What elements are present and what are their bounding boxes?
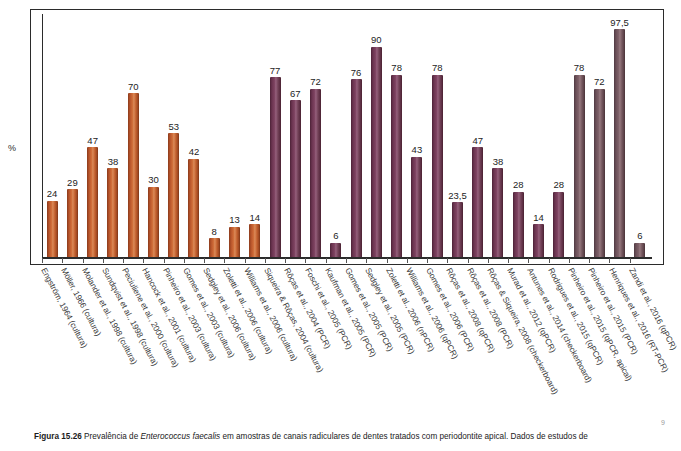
x-axis-tick [184,258,204,263]
x-axis-tick [62,258,82,263]
bar-slot: 53 [164,14,184,257]
bar[interactable] [209,238,220,257]
x-axis-ticks [42,258,650,263]
bar-series: 2429473870305342813147767726769078437823… [42,14,650,257]
bar[interactable] [67,189,78,257]
bar[interactable] [229,227,240,257]
bar[interactable] [249,224,260,257]
x-axis-tick [447,258,467,263]
x-axis-tick [285,258,305,263]
bar-slot: 77 [265,14,285,257]
bar[interactable] [533,224,544,257]
x-axis-tick [427,258,447,263]
page-folio: 9 [661,419,665,426]
x-axis-tick [164,258,184,263]
x-axis-tick [488,258,508,263]
caption-rest: em amostras de canais radiculares de den… [220,432,588,441]
bar-value-label: 6 [617,231,663,241]
bar-slot: 30 [143,14,163,257]
x-axis-category-labels: Engström, 1964 (cultura)Möller, 1966 (cu… [42,266,681,416]
bar[interactable] [270,77,281,257]
x-axis-tick [103,258,123,263]
x-axis-tick [468,258,488,263]
bar-slot: 78 [387,14,407,257]
caption-divider [0,415,672,416]
bar[interactable] [290,100,301,257]
plot-area: 2429473870305342813147767726769078437823… [42,14,650,257]
bar[interactable] [574,75,585,257]
bar-slot: 38 [103,14,123,257]
bar-slot: 72 [589,14,609,257]
figure-number: Figura 15.26 [34,432,84,441]
bar-slot: 42 [184,14,204,257]
bar[interactable] [614,29,625,257]
bar[interactable] [351,79,362,257]
bar[interactable] [148,187,159,257]
bar[interactable] [330,243,341,257]
bar-slot: 72 [305,14,325,257]
x-axis-tick [609,258,629,263]
bar[interactable] [47,201,58,257]
x-axis-tick [366,258,386,263]
x-axis-tick [549,258,569,263]
x-axis-tick [265,258,285,263]
bar[interactable] [553,192,564,257]
caption-lead: Prevalência de [84,432,140,441]
bar[interactable] [107,168,118,257]
bar-slot: 6 [630,14,650,257]
bar[interactable] [513,192,524,257]
bar[interactable] [391,75,402,257]
x-axis-tick [123,258,143,263]
x-axis-tick [589,258,609,263]
x-axis-tick [83,258,103,263]
bar[interactable] [432,75,443,257]
bar-slot: 14 [528,14,548,257]
bar-slot: 78 [427,14,447,257]
bar-slot: 76 [346,14,366,257]
bar[interactable] [452,202,463,257]
x-axis-tick [326,258,346,263]
x-axis-tick [387,258,407,263]
x-axis-tick [143,258,163,263]
x-axis-tick [224,258,244,263]
caption-species-name: Enterococcus faecalis [141,432,221,441]
bar-slot: 97,5 [609,14,629,257]
y-axis-label: % [8,143,16,153]
bar[interactable] [188,159,199,257]
x-axis-tick [42,258,62,263]
bar-slot: 47 [83,14,103,257]
x-axis-tick [508,258,528,263]
x-axis-tick [528,258,548,263]
x-axis-tick [305,258,325,263]
x-axis-tick [630,258,650,263]
bar[interactable] [594,89,605,257]
bar-slot: 28 [549,14,569,257]
bar-slot: 70 [123,14,143,257]
x-axis-tick [407,258,427,263]
bar-slot: 90 [366,14,386,257]
x-axis-tick [346,258,366,263]
bar-slot: 78 [569,14,589,257]
bar[interactable] [371,47,382,257]
bar[interactable] [411,157,422,257]
bar-slot: 14 [245,14,265,257]
bar-slot: 6 [326,14,346,257]
bar-slot: 43 [407,14,427,257]
bar-slot: 67 [285,14,305,257]
x-axis-tick [569,258,589,263]
x-axis-tick [204,258,224,263]
bar-slot: 38 [488,14,508,257]
bar-slot: 47 [468,14,488,257]
bar[interactable] [634,243,645,257]
figure-caption: Figura 15.26 Prevalência de Enterococcus… [34,432,668,442]
bar-slot: 24 [42,14,62,257]
x-axis-tick [245,258,265,263]
